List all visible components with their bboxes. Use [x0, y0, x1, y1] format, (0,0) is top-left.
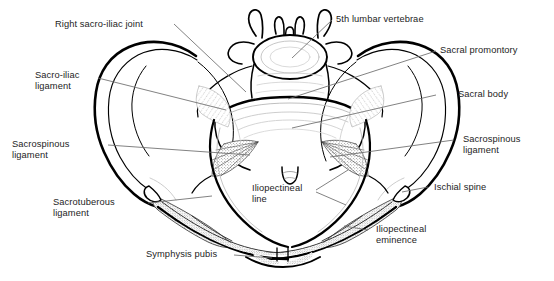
l5-ala-wing-left	[228, 42, 254, 64]
coccyx-segment-line-2	[284, 178, 296, 180]
label-sacrospinous-ligament-right-line2: ligament	[463, 145, 499, 156]
sacral-body-shading-2	[238, 120, 342, 130]
label-sacrotuberous-ligament-line1: Sacrotuberous	[53, 197, 115, 208]
coccyx-tip	[282, 167, 298, 184]
label-iliopectineal-eminence-line1: Iliopectineal	[376, 224, 426, 235]
right-iliac-wing-inner-outline	[357, 49, 446, 190]
sacral-body-upper-surface	[226, 103, 354, 115]
l5-transverse-process-left-outer	[249, 10, 263, 38]
label-iliopectineal-line-line1: Iliopectineal	[252, 183, 302, 194]
label-right-sacro-iliac-joint: Right sacro-iliac joint	[55, 19, 143, 30]
left-greater-sciatic-notch	[192, 176, 211, 193]
sacral-body-shading-1	[232, 112, 348, 122]
l5-disc-shading-2	[257, 82, 323, 85]
label-symphysis-pubis: Symphysis pubis	[146, 249, 217, 260]
label-sacro-iliac-ligament-line1: Sacro-iliac	[35, 70, 79, 81]
left-ischial-spine	[144, 186, 161, 202]
l5-ala-wing-right	[326, 42, 352, 64]
label-sacro-iliac-ligament-line2: ligament	[35, 81, 71, 92]
right-ischial-spine	[393, 186, 410, 202]
left-iliac-wing-inner-outline	[108, 49, 197, 190]
right-iliac-fossa-crest-curve	[405, 66, 422, 156]
sacral-promontory-arc	[215, 97, 365, 118]
coccyx-segment-line-1	[283, 172, 297, 174]
label-sacrospinous-ligament-left-line2: ligament	[12, 150, 48, 161]
left-iliac-fossa-crest-curve	[132, 66, 149, 156]
leader-iliopectineal-line-lower	[316, 192, 346, 205]
label-sacrotuberous-ligament-line2: ligament	[53, 208, 89, 219]
l5-body-right-descending-edge	[326, 64, 329, 98]
leader-right-sacro-iliac-joint	[174, 24, 246, 92]
label-ischial-spine: Ischial spine	[434, 182, 486, 193]
l5-body-left-descending-edge	[251, 64, 254, 98]
l5-transverse-process-right-outer	[317, 10, 331, 38]
l5-vertebral-body	[253, 35, 327, 79]
label-sacral-body: Sacral body	[458, 89, 508, 100]
label-iliopectineal-eminence-line2: eminence	[376, 235, 417, 246]
leader-iliopectineal-line-upper	[316, 170, 348, 190]
sacral-body-shading-3	[244, 129, 336, 138]
label-iliopectineal-line-line2: line	[252, 194, 267, 205]
label-sacrospinous-ligament-left-line1: Sacrospinous	[12, 139, 69, 150]
symphysis-pubis-joint	[277, 248, 288, 263]
pelvis-anatomy-diagram: Right sacro-iliac joint Sacro-iliac liga…	[0, 0, 554, 281]
label-5th-lumbar-vertebrae: 5th lumbar vertebrae	[336, 14, 424, 25]
label-sacrospinous-ligament-right-line1: Sacrospinous	[463, 134, 520, 145]
label-sacral-promontory: Sacral promontory	[440, 45, 518, 56]
